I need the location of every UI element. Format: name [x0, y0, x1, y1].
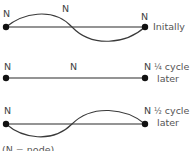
caption-text: cycle — [162, 105, 190, 116]
row-quarter-cycle — [3, 75, 148, 81]
left-end-dot — [3, 75, 9, 81]
left-end-dot — [3, 24, 9, 30]
row-initially — [3, 14, 148, 41]
node-label: N — [4, 106, 11, 116]
right-end-dot — [142, 24, 148, 30]
node-label: N — [144, 106, 151, 116]
caption-later: later — [157, 117, 179, 128]
fraction: ¼ — [154, 63, 162, 72]
row-half-cycle — [3, 110, 148, 136]
wave-curve — [6, 14, 145, 41]
node-label: N — [62, 4, 69, 14]
fraction: ½ — [154, 107, 162, 116]
node-label: N — [3, 9, 10, 19]
node-label: N — [70, 62, 77, 72]
legend-node: (N = node) — [2, 144, 54, 151]
right-end-dot — [142, 121, 148, 127]
caption-later: later — [157, 73, 179, 84]
node-label: N — [144, 62, 151, 72]
caption-quarter-cycle: ¼ cycle — [154, 61, 189, 73]
node-label: N — [141, 12, 148, 22]
left-end-dot — [3, 121, 9, 127]
caption-half-cycle: ½ cycle — [154, 105, 189, 117]
right-end-dot — [142, 75, 148, 81]
caption-initially: Initally — [153, 21, 185, 32]
caption-text: cycle — [162, 61, 190, 72]
node-label: N — [4, 62, 11, 72]
